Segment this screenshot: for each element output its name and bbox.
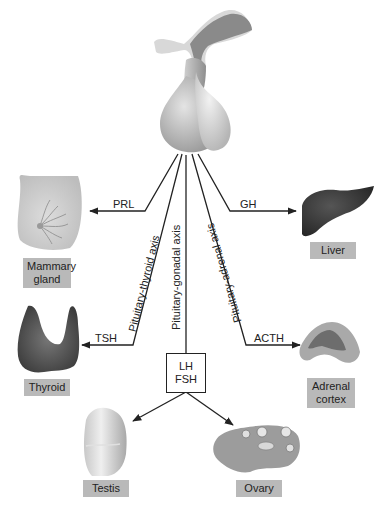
prl-label: PRL xyxy=(113,198,134,210)
gonadal-axis-label: Pituitary-gonadal axis xyxy=(170,225,182,330)
adrenal-cortex-illustration xyxy=(299,322,360,363)
mammary-gland-label: Mammary gland xyxy=(23,258,71,288)
adrenal-cortex-label: Adrenal cortex xyxy=(307,378,355,408)
thyroid-label: Thyroid xyxy=(24,379,70,396)
tsh-label: TSH xyxy=(95,332,117,344)
gh-label: GH xyxy=(240,198,257,210)
mammary-gland-illustration xyxy=(18,175,82,250)
ovary-arrow xyxy=(186,392,233,425)
testis-label: Testis xyxy=(83,480,129,497)
lh-fsh-box: LH FSH xyxy=(166,353,206,393)
lh-label: LH xyxy=(167,360,205,373)
testis-arrow xyxy=(133,392,186,421)
ovary-illustration xyxy=(213,425,300,472)
testis-illustration xyxy=(84,408,127,476)
liver-label: Liver xyxy=(310,242,356,259)
acth-label: ACTH xyxy=(254,332,284,344)
fsh-label: FSH xyxy=(167,373,205,386)
adrenal-axis-line xyxy=(192,154,300,345)
liver-illustration xyxy=(302,186,374,236)
ovary-label: Ovary xyxy=(236,480,282,497)
thyroid-illustration xyxy=(18,306,80,373)
pituitary-gland-illustration xyxy=(154,10,252,152)
